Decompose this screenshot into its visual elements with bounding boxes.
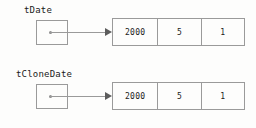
variable-label-original: tDate (24, 5, 52, 16)
variable-label-clone: tCloneDate (16, 69, 72, 80)
record-field-day: 1 (201, 19, 244, 45)
pointer-diagram-clone: tCloneDate 2000 5 1 (0, 64, 256, 128)
pointer-arrow-head-icon (105, 28, 112, 36)
record-box-clone: 2000 5 1 (112, 82, 245, 110)
record-box-original: 2000 5 1 (112, 18, 245, 46)
record-field-year: 2000 (113, 19, 157, 45)
pointer-arrow-shaft-original (50, 32, 108, 33)
record-field-month: 5 (157, 19, 200, 45)
pointer-arrow-shaft-clone (50, 96, 108, 97)
pointer-arrow-head-icon (105, 92, 112, 100)
record-field-day: 1 (201, 83, 244, 109)
record-field-month: 5 (157, 83, 200, 109)
record-field-year: 2000 (113, 83, 157, 109)
pointer-diagram-original: tDate 2000 5 1 (0, 0, 256, 64)
